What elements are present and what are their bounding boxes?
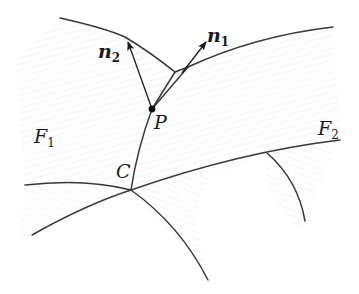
label-c: C xyxy=(116,162,131,181)
label-f2: F2 xyxy=(318,119,339,141)
label-n1: n1 xyxy=(207,26,229,48)
label-f1: F1 xyxy=(34,127,55,149)
label-n2: n2 xyxy=(98,42,120,64)
left-lower-hatch xyxy=(20,179,131,240)
label-p: P xyxy=(154,113,167,132)
point-c xyxy=(130,189,132,191)
